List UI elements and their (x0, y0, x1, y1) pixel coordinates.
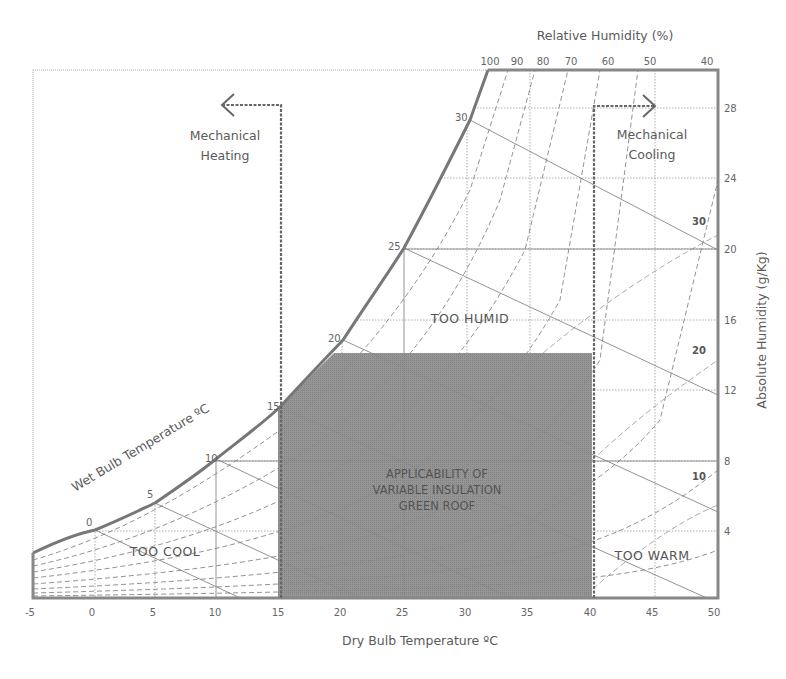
svg-text:0: 0 (89, 607, 95, 618)
svg-text:16: 16 (724, 315, 737, 326)
too-warm-label: TOO WARM (614, 548, 690, 563)
mechanical-cooling-label: Mechanical Cooling (617, 127, 687, 162)
svg-text:10: 10 (692, 471, 706, 482)
svg-text:APPLICABILITY OF: APPLICABILITY OF (386, 467, 488, 481)
svg-text:40: 40 (584, 607, 597, 618)
svg-text:50: 50 (644, 56, 657, 67)
svg-text:25: 25 (396, 607, 409, 618)
svg-text:0: 0 (86, 517, 92, 528)
svg-text:8: 8 (724, 456, 730, 467)
svg-text:24: 24 (724, 173, 737, 184)
dry-bulb-axis-title: Dry Bulb Temperature ºC (342, 633, 498, 648)
svg-text:15: 15 (272, 607, 285, 618)
svg-text:30: 30 (692, 216, 706, 227)
svg-text:-5: -5 (25, 607, 35, 618)
svg-text:Mechanical: Mechanical (617, 127, 687, 142)
svg-text:80: 80 (537, 56, 550, 67)
too-cool-label: TOO COOL (129, 544, 201, 559)
svg-text:Heating: Heating (201, 148, 250, 163)
svg-text:40: 40 (701, 56, 714, 67)
svg-text:15: 15 (267, 401, 280, 412)
svg-text:20: 20 (724, 244, 737, 255)
svg-text:70: 70 (565, 56, 578, 67)
abs-humidity-axis-title: Absolute Humidity (g/Kg) (754, 251, 769, 408)
svg-text:5: 5 (147, 489, 153, 500)
svg-text:100: 100 (480, 56, 499, 67)
svg-text:20: 20 (334, 607, 347, 618)
svg-text:20: 20 (328, 333, 341, 344)
svg-text:5: 5 (150, 607, 156, 618)
mechanical-heating-label: Mechanical Heating (190, 128, 260, 163)
svg-text:25: 25 (388, 241, 401, 252)
svg-text:4: 4 (724, 526, 730, 537)
svg-text:10: 10 (209, 607, 222, 618)
svg-text:50: 50 (708, 607, 721, 618)
svg-text:30: 30 (459, 607, 472, 618)
psychrometric-chart: 100 90 80 70 60 50 40 Relative Humidity … (0, 0, 786, 679)
too-humid-label: TOO HUMID (430, 311, 509, 326)
svg-text:30: 30 (455, 112, 468, 123)
dry-bulb-ticks: -5 0 5 10 15 20 25 30 35 40 45 50 (25, 607, 720, 618)
svg-text:20: 20 (692, 345, 706, 356)
svg-text:60: 60 (602, 56, 615, 67)
mechanical-heating-arrow (222, 94, 281, 598)
wet-bulb-axis-title: Wet Bulb Temperature ºC (69, 400, 212, 494)
rh-axis-title: Relative Humidity (%) (537, 28, 674, 43)
enthalpy-ticks: 10 20 30 (692, 216, 706, 482)
svg-text:45: 45 (646, 607, 659, 618)
svg-text:VARIABLE INSULATION: VARIABLE INSULATION (373, 483, 502, 497)
rh-ticks: 100 90 80 70 60 50 40 (480, 56, 713, 67)
svg-text:Mechanical: Mechanical (190, 128, 260, 143)
abs-humidity-ticks: 4 8 12 16 20 24 28 (724, 103, 737, 537)
svg-text:28: 28 (724, 103, 737, 114)
svg-text:Cooling: Cooling (629, 147, 676, 162)
svg-text:90: 90 (511, 56, 524, 67)
svg-text:GREEN ROOF: GREEN ROOF (399, 499, 475, 513)
svg-text:12: 12 (724, 385, 737, 396)
svg-text:35: 35 (521, 607, 534, 618)
svg-text:10: 10 (205, 453, 218, 464)
